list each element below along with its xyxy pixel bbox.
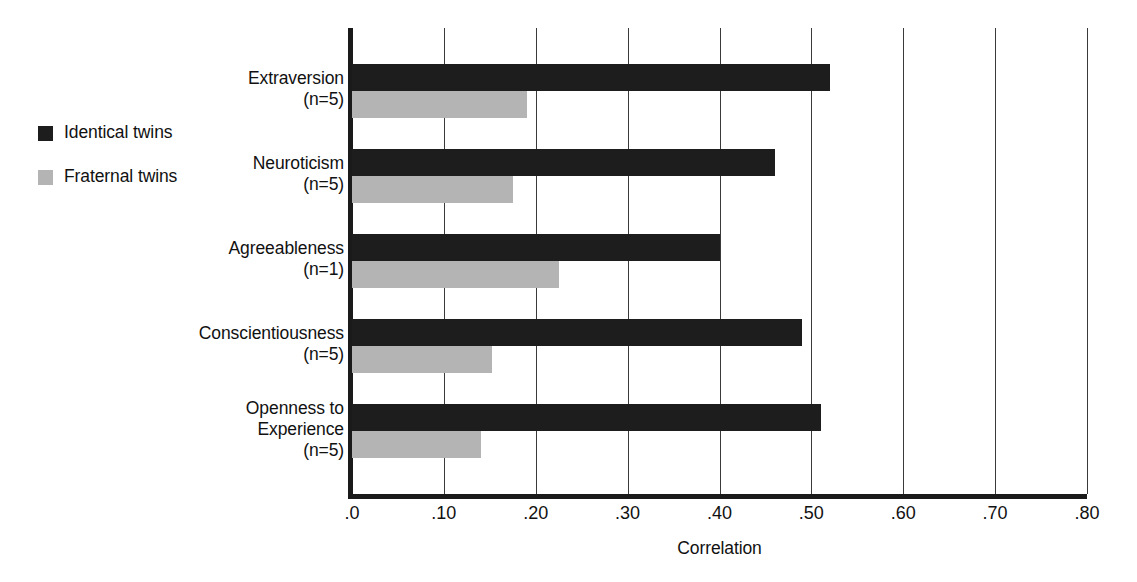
bar bbox=[352, 346, 492, 373]
x-tick-label: .20 bbox=[523, 502, 548, 524]
category-label-line: Openness to bbox=[84, 398, 344, 419]
bar bbox=[352, 149, 775, 176]
category-label: Neuroticism(n=5) bbox=[84, 153, 344, 195]
x-tick-label: .50 bbox=[799, 502, 824, 524]
category-sample-size: (n=5) bbox=[84, 174, 344, 195]
x-tick-label: .30 bbox=[615, 502, 640, 524]
gridline bbox=[1087, 28, 1088, 494]
x-tick-label: .70 bbox=[983, 502, 1008, 524]
x-tick-label: .80 bbox=[1074, 502, 1099, 524]
bar bbox=[352, 261, 559, 288]
category-label-line: Neuroticism bbox=[84, 153, 344, 174]
x-axis-line bbox=[348, 494, 1087, 499]
category-label: Openness toExperience(n=5) bbox=[84, 398, 344, 461]
category-label-line: Experience bbox=[84, 419, 344, 440]
bar bbox=[352, 319, 802, 346]
bar bbox=[352, 234, 720, 261]
category-sample-size: (n=5) bbox=[84, 440, 344, 461]
category-sample-size: (n=5) bbox=[84, 344, 344, 365]
category-label-line: Agreeableness bbox=[84, 238, 344, 259]
category-label: Agreeableness(n=1) bbox=[84, 238, 344, 280]
x-tick-label: .60 bbox=[891, 502, 916, 524]
category-label-line: Extraversion bbox=[84, 68, 344, 89]
category-axis-labels: Extraversion(n=5)Neuroticism(n=5)Agreeab… bbox=[82, 28, 344, 494]
gridline bbox=[903, 28, 904, 494]
bar bbox=[352, 404, 821, 431]
bar bbox=[352, 176, 513, 203]
category-label: Conscientiousness(n=5) bbox=[84, 323, 344, 365]
category-sample-size: (n=1) bbox=[84, 259, 344, 280]
x-axis-tick-labels: .0.10.20.30.40.50.60.70.80 bbox=[352, 502, 1087, 532]
plot-area bbox=[352, 28, 1087, 494]
x-tick-label: .0 bbox=[344, 502, 359, 524]
bar bbox=[352, 64, 830, 91]
x-axis-title: Correlation bbox=[352, 538, 1087, 559]
category-label-line: Conscientiousness bbox=[84, 323, 344, 344]
gridline bbox=[995, 28, 996, 494]
x-tick-label: .10 bbox=[431, 502, 456, 524]
bar bbox=[352, 431, 481, 458]
chart-figure: Identical twinsFraternal twins Extravers… bbox=[0, 0, 1137, 582]
x-tick-label: .40 bbox=[707, 502, 732, 524]
bar bbox=[352, 91, 527, 118]
legend-swatch-icon bbox=[38, 126, 53, 141]
category-sample-size: (n=5) bbox=[84, 89, 344, 110]
legend-swatch-icon bbox=[38, 170, 53, 185]
category-label: Extraversion(n=5) bbox=[84, 68, 344, 110]
